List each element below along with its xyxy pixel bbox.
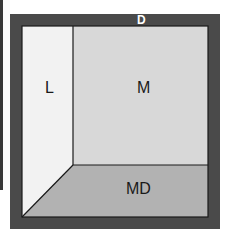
label-l: L: [45, 80, 54, 96]
room-diagram: [0, 0, 229, 241]
label-d: D: [137, 14, 146, 26]
label-md: MD: [126, 181, 151, 197]
label-m: M: [137, 80, 150, 96]
